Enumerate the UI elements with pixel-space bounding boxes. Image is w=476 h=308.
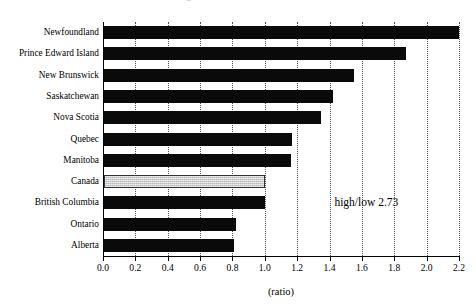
value-axis-tick [168,257,169,261]
value-axis-line [103,256,460,257]
category-label: Quebec [0,134,99,144]
bar [104,69,354,82]
value-axis-tick [200,257,201,261]
category-label: Prince Edward Island [0,48,99,58]
category-label: New Brunswick [0,70,99,80]
category-label: Ontario [0,219,99,229]
value-axis-tick [265,257,266,261]
bar [104,90,333,103]
bar [104,218,236,231]
bar-highlight [104,175,265,188]
value-axis-tick [459,257,460,261]
value-axis-tick [394,257,395,261]
category-label: Manitoba [0,155,99,165]
category-label: British Columbia [0,197,99,207]
plot-area: high/low 2.73 [103,22,459,256]
bar [104,111,321,124]
high-low-annotation: high/low 2.73 [334,196,398,208]
gridline [459,22,461,256]
category-axis-labels: NewfoundlandPrince Edward IslandNew Brun… [0,22,99,256]
value-axis-tick [330,257,331,261]
value-axis-tick [135,257,136,261]
value-axis-title: (ratio) [103,286,459,297]
category-label: Canada [0,176,99,186]
value-axis-tick [232,257,233,261]
bar [104,154,291,167]
bar [104,196,265,209]
category-label: Newfoundland [0,27,99,37]
value-axis-tick [362,257,363,261]
category-label: Saskatchewan [0,91,99,101]
gridline [427,22,429,256]
bar [104,239,234,252]
value-axis-tick [103,257,104,261]
value-axis-tick-label: 2.2 [439,262,476,273]
category-label: Alberta [0,240,99,250]
cropped-title-remnant: g [186,0,216,1]
value-axis-tick [427,257,428,261]
value-axis-tick [297,257,298,261]
bar-chart: g NewfoundlandPrince Edward IslandNew Br… [0,0,476,308]
bar [104,133,292,146]
bar [104,47,406,60]
category-label: Nova Scotia [0,112,99,122]
bar [104,26,459,39]
